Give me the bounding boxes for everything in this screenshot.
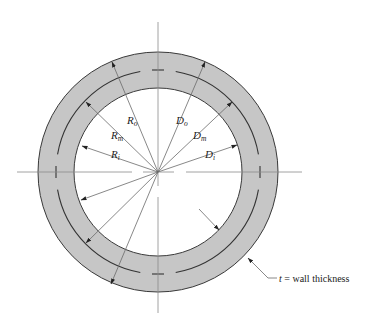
label-d-inner: Di <box>204 148 215 162</box>
arrow-d-inner-b <box>81 172 158 200</box>
label-d-mean: Dm <box>192 129 207 143</box>
arrow-d-mean-b <box>86 172 158 243</box>
arrow-d-inner-a <box>158 145 237 172</box>
arrow-t-inside <box>199 209 219 230</box>
label-r-inner: Ri <box>110 148 120 162</box>
label-r-mean: Rm <box>110 129 124 143</box>
leader-t-outside <box>248 258 277 278</box>
label-d-outer: Do <box>175 114 188 128</box>
arrow-r-inner <box>82 146 158 172</box>
wall-thickness-label: t = wall thickness <box>279 273 349 284</box>
pipe-cross-section-diagram: Ro Rm Ri Do Dm Di t = wall thickness <box>0 0 373 329</box>
label-r-outer: Ro <box>126 114 138 128</box>
